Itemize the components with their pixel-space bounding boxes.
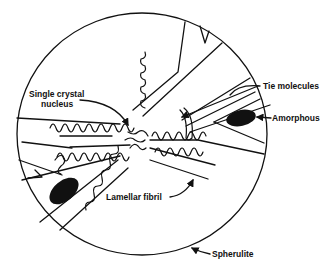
svg-text:Spherulite: Spherulite	[212, 249, 254, 259]
svg-text:Lamellar fibril: Lamellar fibril	[106, 192, 162, 202]
label-spherulite: Spherulite	[192, 248, 254, 259]
svg-text:Amorphous: Amorphous	[272, 113, 320, 123]
svg-text:Single crystal: Single crystal	[29, 89, 84, 99]
label-lamellar-fibril: Lamellar fibril	[106, 180, 193, 202]
spherulite-diagram: Single crystal nucleus Tie molecules Amo…	[0, 0, 331, 267]
svg-text:Tie molecules: Tie molecules	[263, 81, 319, 91]
spherulite-boundary	[17, 13, 267, 255]
amorphous-region-left	[45, 172, 84, 209]
svg-text:nucleus: nucleus	[41, 99, 73, 109]
